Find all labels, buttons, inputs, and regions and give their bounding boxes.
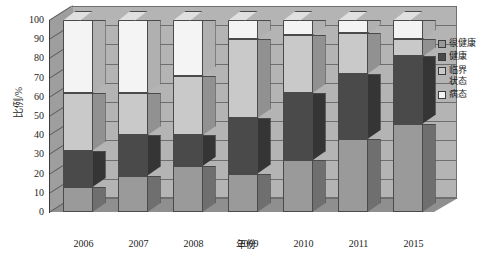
bar-segment-side <box>313 160 326 212</box>
bar-segment[interactable] <box>283 160 313 212</box>
bar-segment-side <box>258 39 271 118</box>
legend-item[interactable]: 健康 <box>438 51 476 62</box>
bar-segment[interactable] <box>173 135 203 166</box>
legend-item[interactable]: 很健康 <box>438 38 476 49</box>
bar-segment-side <box>313 93 326 160</box>
bar-segment-side <box>423 124 436 212</box>
bar-segment[interactable] <box>228 118 258 174</box>
gridline <box>72 6 457 7</box>
bar-column[interactable] <box>173 20 203 212</box>
bar-segment[interactable] <box>118 176 148 212</box>
y-tick-label: 60 <box>34 92 44 102</box>
legend-item-label: 病态 <box>449 89 467 100</box>
bar-segment[interactable] <box>228 174 258 212</box>
legend-item[interactable]: 病态 <box>438 89 476 100</box>
x-axis-title: 年份 <box>0 236 492 251</box>
y-tick-label: 30 <box>34 149 44 159</box>
bar-segment-side <box>203 76 216 136</box>
bar-segment[interactable] <box>338 20 368 33</box>
y-tick-label: 100 <box>29 15 44 25</box>
bar-column[interactable] <box>228 20 258 212</box>
y-tick-label: 90 <box>34 34 44 44</box>
legend-swatch-icon <box>438 53 446 61</box>
bar-segment[interactable] <box>118 135 148 175</box>
legend-item-label: 健康 <box>449 51 467 62</box>
bar-segment-side <box>148 20 161 93</box>
bar-segment[interactable] <box>63 93 93 151</box>
y-tick-label: 0 <box>39 207 44 217</box>
bar-segment[interactable] <box>228 39 258 118</box>
bar-segment[interactable] <box>63 187 93 212</box>
bar-segment[interactable] <box>393 124 423 212</box>
chart-container: 0102030405060708090100 20062007200820092… <box>0 0 492 259</box>
y-tick-label: 70 <box>34 73 44 83</box>
y-tick-label: 20 <box>34 169 44 179</box>
bar-segment[interactable] <box>283 35 313 93</box>
bar-segment-side <box>368 139 381 212</box>
legend-item-label: 临界 状态 <box>449 65 467 88</box>
bar-segment[interactable] <box>173 20 203 76</box>
legend-item[interactable]: 临界 状态 <box>438 65 476 88</box>
bar-segment[interactable] <box>118 93 148 135</box>
bar-segment[interactable] <box>393 39 423 56</box>
bar-segment[interactable] <box>393 20 423 39</box>
bar-segment[interactable] <box>63 20 93 93</box>
bar-column[interactable] <box>393 20 423 212</box>
legend-swatch-icon <box>438 91 446 99</box>
y-axis-line <box>49 20 50 213</box>
bar-segment-side <box>203 20 216 76</box>
y-axis-title: 比例/% <box>10 87 25 118</box>
bar-segment[interactable] <box>283 20 313 35</box>
bar-column[interactable] <box>283 20 313 212</box>
bar-segment-side <box>313 35 326 93</box>
y-tick-label: 80 <box>34 53 44 63</box>
bar-segment[interactable] <box>338 139 368 212</box>
bar-column[interactable] <box>118 20 148 212</box>
bar-segment-side <box>423 56 436 123</box>
chart-legend: 很健康健康临界 状态病态 <box>438 38 476 102</box>
y-tick-label: 40 <box>34 130 44 140</box>
y-tick-label: 10 <box>34 188 44 198</box>
legend-swatch-icon <box>438 67 446 75</box>
bar-segment[interactable] <box>173 76 203 136</box>
legend-swatch-icon <box>438 40 446 48</box>
bar-segment-side <box>258 118 271 174</box>
y-tick-label: 50 <box>34 111 44 121</box>
bar-segment-side <box>93 93 106 151</box>
bar-segment[interactable] <box>118 20 148 93</box>
legend-item-label: 很健康 <box>449 38 476 49</box>
bar-segment[interactable] <box>338 33 368 73</box>
bar-segment[interactable] <box>283 93 313 160</box>
bar-segment[interactable] <box>338 74 368 139</box>
bar-segment-side <box>93 20 106 93</box>
bar-segment[interactable] <box>63 151 93 187</box>
bar-segment[interactable] <box>393 56 423 123</box>
bar-segment[interactable] <box>173 166 203 212</box>
plot-area: 0102030405060708090100 20062007200820092… <box>50 20 435 212</box>
bar-column[interactable] <box>63 20 93 212</box>
bar-column[interactable] <box>338 20 368 212</box>
bar-segment-side <box>368 74 381 139</box>
bar-segment[interactable] <box>228 20 258 39</box>
